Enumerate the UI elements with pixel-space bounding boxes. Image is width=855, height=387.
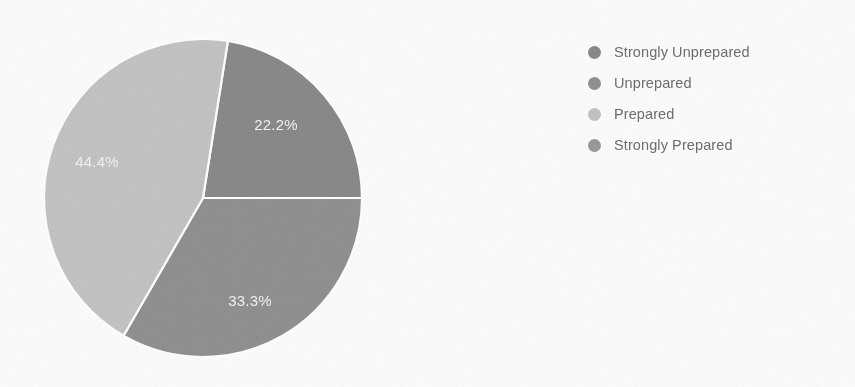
pie-slices <box>44 39 362 357</box>
chart-legend: Strongly Unprepared Unprepared Prepared … <box>588 38 833 162</box>
legend-swatch-icon <box>588 108 601 121</box>
legend-swatch-icon <box>588 46 601 59</box>
legend-item-label: Strongly Unprepared <box>614 44 750 60</box>
legend-item-label: Prepared <box>614 106 674 122</box>
legend-item-unprepared[interactable]: Unprepared <box>588 69 833 97</box>
pie-slice-label-unprepared: 33.3% <box>228 292 272 309</box>
legend-swatch-icon <box>588 77 601 90</box>
legend-swatch-icon <box>588 139 601 152</box>
pie-slice-label-prepared: 44.4% <box>75 153 119 170</box>
pie-chart-figure: 22.2% 33.3% 44.4% Strongly Unprepared Un… <box>0 0 855 387</box>
pie-chart-svg: 22.2% 33.3% 44.4% <box>43 38 363 358</box>
pie-slice-label-strongly-unprepared: 22.2% <box>254 116 298 133</box>
legend-item-label: Strongly Prepared <box>614 137 733 153</box>
legend-item-prepared[interactable]: Prepared <box>588 100 833 128</box>
legend-item-strongly-unprepared[interactable]: Strongly Unprepared <box>588 38 833 66</box>
legend-item-label: Unprepared <box>614 75 692 91</box>
pie-chart-plot-area: 22.2% 33.3% 44.4% <box>43 38 363 358</box>
legend-item-strongly-prepared[interactable]: Strongly Prepared <box>588 131 833 159</box>
